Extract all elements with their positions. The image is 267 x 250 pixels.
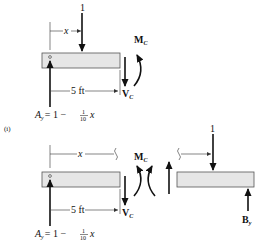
moment-arrow-icon bbox=[134, 55, 141, 86]
break-symbol-icon bbox=[115, 148, 118, 160]
distance-label: x bbox=[63, 25, 69, 36]
span-label: 5 ft bbox=[71, 85, 85, 96]
distance-label: x bbox=[77, 148, 83, 159]
fraction-denominator: 10 bbox=[80, 116, 86, 122]
reaction-equation: Ay= 1 − bbox=[34, 109, 66, 121]
moment-arrow-icon bbox=[134, 166, 141, 196]
shear-moment-diagram: 1 x 5 ft VC MC Ay= 1 − 1 10 x (i) bbox=[0, 0, 267, 250]
moment-label: MC bbox=[134, 151, 148, 163]
reaction-label: By bbox=[242, 214, 252, 226]
bottom-left-free-body-diagram: x 5 ft VC MC Ay= 1 − 1 10 x bbox=[34, 145, 148, 241]
break-symbol-icon bbox=[178, 148, 181, 160]
beam-segment bbox=[177, 172, 254, 187]
part-label: (i) bbox=[4, 125, 11, 133]
shear-label: VC bbox=[122, 88, 134, 100]
top-free-body-diagram: 1 x 5 ft VC MC Ay= 1 − 1 10 x bbox=[34, 2, 148, 122]
moment-label: MC bbox=[134, 34, 148, 46]
bottom-right-free-body-diagram: 1 By bbox=[148, 123, 254, 226]
moment-arrow-icon bbox=[148, 166, 155, 196]
beam-segment bbox=[42, 53, 120, 68]
fraction-numerator: 1 bbox=[82, 228, 85, 234]
span-label: 5 ft bbox=[71, 204, 85, 215]
reaction-variable: x bbox=[89, 228, 95, 239]
beam-segment bbox=[42, 172, 120, 187]
load-label: 1 bbox=[80, 2, 85, 13]
reaction-variable: x bbox=[89, 109, 95, 120]
fraction-denominator: 10 bbox=[80, 235, 86, 241]
reaction-equation: Ay= 1 − bbox=[34, 228, 66, 240]
load-label: 1 bbox=[210, 123, 215, 134]
shear-label: VC bbox=[122, 207, 134, 219]
fraction-numerator: 1 bbox=[82, 109, 85, 115]
